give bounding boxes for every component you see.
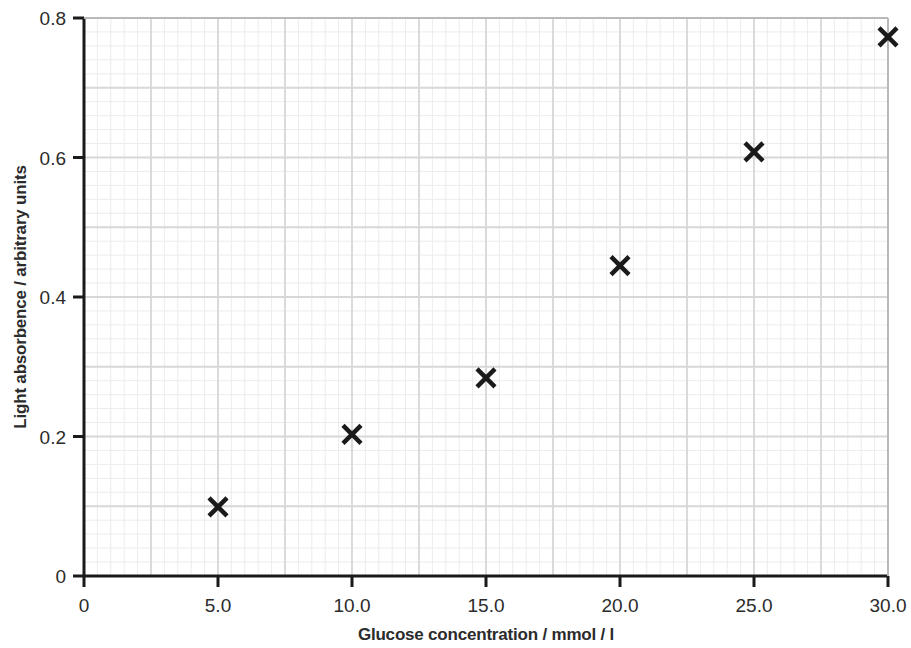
x-axis-tick-label: 0 (79, 595, 90, 616)
x-axis-tick-label: 5.0 (205, 595, 231, 616)
y-axis-tick-label: 0.6 (40, 148, 66, 169)
x-axis-ticks (84, 576, 888, 587)
x-axis-tick-label: 20.0 (602, 595, 639, 616)
x-axis-tick-label: 10.0 (334, 595, 371, 616)
scatter-plot: 05.010.015.020.025.030.0 00.20.40.60.8 G… (0, 0, 911, 648)
y-axis-title: Light absorbence / arbitrary units (11, 165, 30, 428)
y-axis-tick-label: 0.2 (40, 427, 66, 448)
x-axis-tick-label: 15.0 (468, 595, 505, 616)
y-axis-ticks (73, 18, 84, 576)
x-axis-tick-label: 25.0 (736, 595, 773, 616)
y-axis-tick-labels: 00.20.40.60.8 (40, 8, 67, 587)
x-axis-tick-labels: 05.010.015.020.025.030.0 (79, 595, 907, 616)
y-axis-tick-label: 0.8 (40, 8, 66, 29)
y-axis-tick-label: 0.4 (40, 287, 67, 308)
y-axis-tick-label: 0 (55, 566, 66, 587)
chart-figure: 05.010.015.020.025.030.0 00.20.40.60.8 G… (0, 0, 911, 648)
x-axis-tick-label: 30.0 (870, 595, 907, 616)
x-axis-title: Glucose concentration / mmol / l (358, 625, 614, 644)
